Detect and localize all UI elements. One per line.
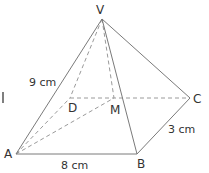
vertex-label-D: D xyxy=(68,101,77,115)
edge-VB xyxy=(102,19,137,154)
edge-AM-hidden xyxy=(16,98,114,154)
vertex-label-A: A xyxy=(4,147,13,161)
pyramid-diagram: V A B C D M 9 cm 8 cm 3 cm xyxy=(0,0,209,173)
measurement-AB: 8 cm xyxy=(61,159,88,172)
edge-VD-hidden xyxy=(70,19,102,98)
vertex-label-B: B xyxy=(137,157,145,171)
measurement-BC: 3 cm xyxy=(168,123,195,136)
measurement-VA: 9 cm xyxy=(29,76,56,89)
vertex-label-V: V xyxy=(96,3,105,17)
edge-AD-hidden xyxy=(16,98,70,154)
edge-VC xyxy=(102,19,190,98)
vertex-label-M: M xyxy=(110,103,120,117)
vertex-label-C: C xyxy=(193,92,201,106)
